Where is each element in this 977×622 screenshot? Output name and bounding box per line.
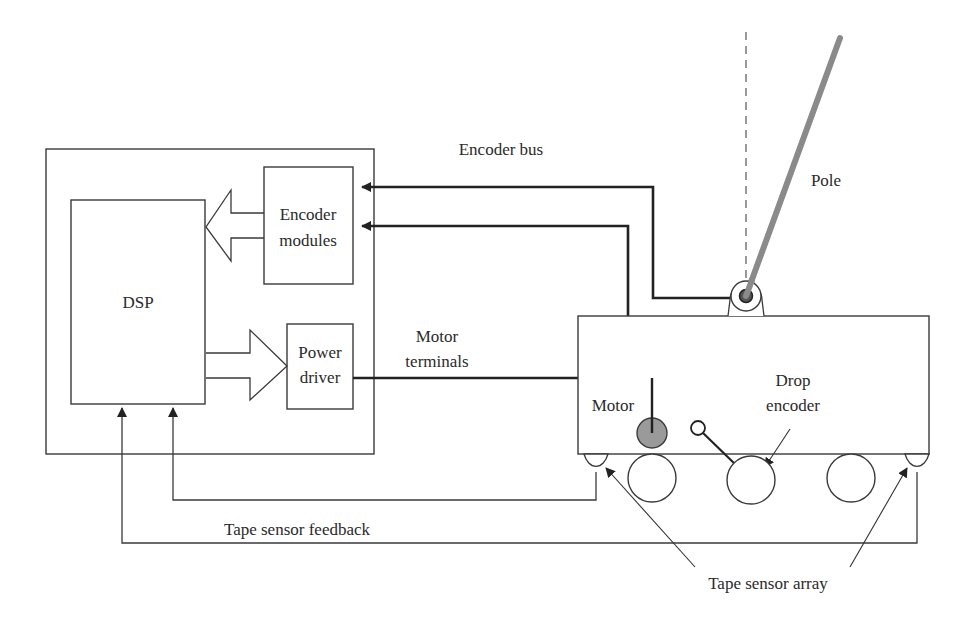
drop-encoder-label-line2: encoder — [766, 396, 820, 415]
cart-body — [578, 316, 929, 454]
encoder-modules-label-line2: modules — [279, 231, 337, 250]
dsp-block: DSP — [71, 200, 205, 404]
motor-label: Motor — [592, 396, 635, 415]
wheel-3 — [827, 454, 875, 502]
cart-pole-system-diagram: DSP Encoder modules Power driver Encoder… — [0, 0, 977, 622]
motor-terminals-label-line1: Motor — [416, 327, 459, 346]
dsp-label: DSP — [122, 293, 153, 312]
encoder-modules-block: Encoder modules — [264, 167, 353, 284]
pole-label: Pole — [811, 171, 841, 190]
encoder-bus-label: Encoder bus — [459, 140, 544, 159]
power-driver-label-line2: driver — [300, 368, 341, 387]
wheel-2-drop-encoder — [727, 456, 775, 504]
wheel-1 — [628, 454, 676, 502]
tape-sensor-right — [905, 454, 929, 466]
power-driver-block: Power driver — [287, 324, 353, 409]
tape-sensor-feedback-label: Tape sensor feedback — [224, 520, 371, 539]
pole — [746, 38, 840, 296]
pole-pivot-mount — [728, 280, 764, 316]
power-driver-label-line1: Power — [298, 343, 342, 362]
encoder-modules-label-line1: Encoder — [280, 205, 337, 224]
tape-sensor-array-label: Tape sensor array — [708, 574, 828, 593]
motor-terminals-label-line2: terminals — [405, 352, 468, 371]
tape-sensor-left — [584, 454, 608, 466]
drop-encoder-label-line1: Drop — [776, 371, 811, 390]
encoder-bus-line-pole — [362, 187, 732, 298]
